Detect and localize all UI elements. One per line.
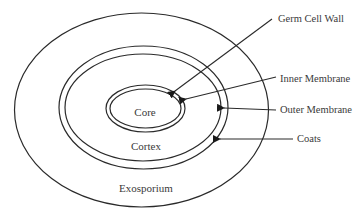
germ-cell-wall-arrow xyxy=(175,19,272,91)
outer-membrane-label: Outer Membrane xyxy=(280,104,352,115)
inner-membrane-label: Inner Membrane xyxy=(280,73,351,84)
germ-cell-wall-label: Germ Cell Wall xyxy=(278,13,344,24)
core-label: Core xyxy=(134,106,156,118)
spore-structure-diagram: Core Cortex Exosporium Germ Cell Wall In… xyxy=(0,0,363,214)
coats-label: Coats xyxy=(297,133,321,144)
inner-membrane-arrow xyxy=(186,77,276,99)
cortex-label: Cortex xyxy=(131,140,161,152)
exosporium-label: Exosporium xyxy=(119,182,173,194)
